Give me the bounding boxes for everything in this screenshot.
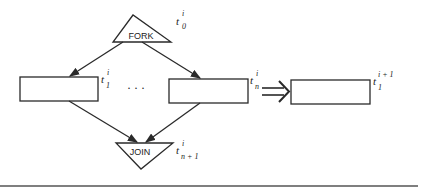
svg-text:1: 1 [106,81,110,90]
svg-text:n: n [255,82,259,91]
svg-text:i: i [256,69,258,78]
svg-text:i: i [182,9,184,18]
fork-time-label: t i 0 [176,9,186,31]
task-box-next [291,80,370,104]
svg-text:0: 0 [182,22,186,31]
task-first-time-label: t i 1 [101,68,110,90]
fork-node: FORK [113,15,171,42]
svg-text:t: t [176,15,180,27]
join-label: JOIN [130,147,151,157]
arrow-fork-to-first [70,42,123,76]
arrow-first-to-join [69,101,137,142]
svg-text:i: i [182,139,184,148]
task-box-last [169,79,248,103]
svg-text:t: t [250,74,254,86]
svg-text:t: t [373,75,377,87]
arrow-fork-to-last [142,42,200,78]
ellipsis: · · · [127,81,145,95]
svg-text:i: i [107,68,109,77]
svg-text:i + 1: i + 1 [378,70,394,79]
fork-label: FORK [128,31,153,41]
arrow-last-to-join [146,103,200,142]
task-last-time-label: t i n [250,69,259,91]
svg-text:n + 1: n + 1 [181,152,198,161]
join-node: JOIN [116,143,173,169]
svg-text:1: 1 [378,83,382,92]
task-next-time-label: t i + 1 1 [373,70,394,92]
svg-text:t: t [101,73,105,85]
join-time-label: t i n + 1 [176,139,198,161]
double-arrow-icon [262,81,289,102]
task-box-first [20,77,98,101]
svg-text:t: t [176,144,180,156]
fork-join-diagram: FORK t i 0 t i 1 · · · t i n t i + 1 1 J… [0,0,425,192]
